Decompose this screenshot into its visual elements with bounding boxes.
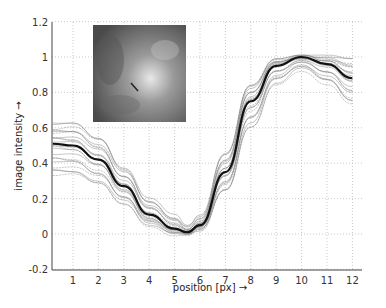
x-tick-label: 10 [295,275,308,286]
x-tick-label: 11 [321,275,334,286]
profile-chart: 123456789101112-0.200.20.40.60.811.2 pos… [0,0,386,308]
y-tick-label: 0.2 [32,194,48,205]
x-tick-label: 8 [248,275,254,286]
x-tick-label: 1 [70,275,76,286]
y-tick-label: 1 [42,52,48,63]
y-tick-label: 0.8 [32,87,48,98]
y-tick-label: 1.2 [32,17,48,28]
x-tick-label: 9 [273,275,279,286]
x-axis-label: position [px] → [173,282,247,293]
y-tick-label: -0.2 [28,264,48,275]
x-tick-label: 4 [146,275,152,286]
y-tick-label: 0 [42,229,48,240]
y-tick-label: 0.6 [32,123,48,134]
x-tick-label: 12 [346,275,359,286]
y-axis-label: image intensity → [13,101,24,190]
x-tick-label: 3 [121,275,127,286]
y-tick-label: 0.4 [32,158,48,169]
x-tick-label: 2 [95,275,101,286]
inset-image [93,25,186,122]
